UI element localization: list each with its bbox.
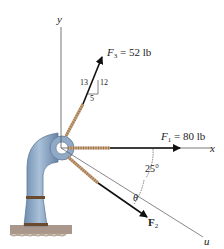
triangle-run: 5 [90, 95, 94, 103]
pipe-base-band [24, 223, 48, 226]
f1-label: F1 = 80 lb [161, 131, 205, 144]
ground [10, 225, 72, 236]
u-axis-label: u [204, 236, 210, 247]
triangle-rise: 12 [100, 79, 108, 87]
f1-symbol: F [161, 130, 168, 142]
angle-theta-label: θ [133, 193, 138, 203]
f2-label: F2 [148, 217, 158, 230]
f2-subscript: 2 [155, 222, 159, 230]
x-axis-label: x [210, 143, 215, 154]
force-diagram [0, 0, 224, 249]
triangle-hypotenuse: 13 [80, 79, 88, 87]
y-axis-label: y [57, 14, 62, 25]
f2-arrow [98, 183, 147, 217]
pipe-band [26, 196, 45, 199]
u-axis [61, 148, 203, 237]
f2-symbol: F [148, 216, 155, 228]
angle-25-label: 25° [145, 164, 159, 174]
f3-value: = 52 lb [117, 46, 151, 58]
f1-value: = 80 lb [171, 130, 205, 142]
f3-symbol: F [107, 46, 114, 58]
f3-label: F3 = 52 lb [107, 47, 151, 60]
